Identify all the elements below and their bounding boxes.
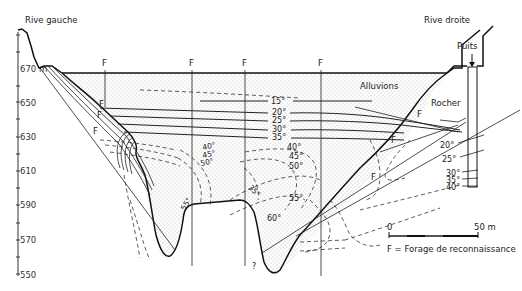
- isotherm-15: 15°: [271, 97, 285, 106]
- isotherm-20-right: 20°: [440, 141, 454, 150]
- borehole-label-10: F: [371, 172, 376, 182]
- isotherm-55-center: 55°: [289, 194, 303, 203]
- well-shaft: [468, 54, 477, 187]
- legend-text: F = Forage de reconnaissance: [387, 244, 516, 254]
- borehole-label-9: F: [391, 135, 396, 145]
- isotherm-35: 35°: [272, 133, 286, 142]
- isotherm-25-right: 25°: [442, 155, 456, 164]
- rock-label: Rocher: [431, 98, 461, 108]
- isotherm-40-right: 40°: [446, 183, 460, 192]
- unknown-marker: ?: [252, 262, 256, 271]
- tick-590: 590: [20, 200, 36, 210]
- borehole-label-1: F: [102, 58, 107, 68]
- scale-end: 50 m: [474, 222, 496, 232]
- borehole-label-4: F: [318, 58, 323, 68]
- borehole-label-7: F: [93, 126, 98, 136]
- isotherm-50-center: 50°: [289, 162, 303, 171]
- isotherm-60: 60°: [267, 214, 281, 223]
- tick-630: 630: [20, 132, 36, 142]
- isotherm-45-center: 45°: [289, 152, 303, 161]
- scale-bar: 0 50 m: [387, 222, 496, 238]
- borehole-label-5: F: [99, 99, 104, 109]
- borehole-label-2: F: [189, 58, 194, 68]
- borehole-label-8: F: [417, 109, 422, 119]
- isotherm-40-center: 40°: [287, 143, 301, 152]
- tick-610: 610: [20, 166, 36, 176]
- isotherm-25: 25°: [272, 116, 286, 125]
- tick-550: 550: [20, 270, 36, 280]
- borehole-label-3: F: [242, 58, 247, 68]
- borehole-label-6: F: [97, 110, 102, 120]
- scale-start: 0: [387, 222, 392, 232]
- well-label: Puits: [457, 41, 478, 51]
- right-bank-label: Rive droite: [424, 15, 470, 25]
- cross-section-diagram: 670 m 650 630 610 590 570 550: [0, 0, 522, 291]
- tick-650: 650: [20, 98, 36, 108]
- elevation-axis: 670 m 650 630 610 590 570 550: [16, 32, 47, 280]
- left-bank-label: Rive gauche: [25, 15, 78, 25]
- tick-570: 570: [20, 235, 36, 245]
- alluvium-label: Alluvions: [360, 81, 399, 91]
